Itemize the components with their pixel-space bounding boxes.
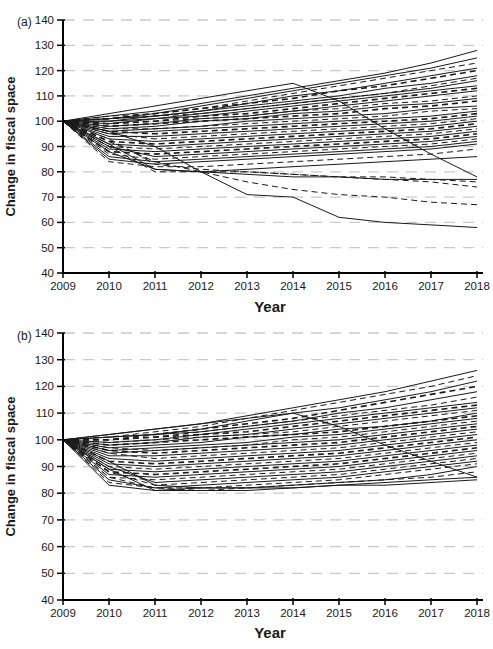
- x-tick-label: 2009: [50, 607, 76, 619]
- y-axis-title: Change in fiscal space: [3, 76, 18, 216]
- x-tick-label: 2011: [143, 607, 168, 619]
- x-tick-label: 2012: [188, 607, 214, 619]
- y-tick-label: 90: [41, 141, 54, 153]
- y-tick-label: 50: [41, 567, 54, 579]
- panel-label: (a): [17, 15, 32, 29]
- series-line: [63, 370, 477, 439]
- series-line: [63, 121, 477, 156]
- y-tick-label: 140: [35, 327, 54, 339]
- panel-a-chart: 4050607080901001101201301402009201020112…: [0, 0, 493, 322]
- y-tick-label: 120: [35, 380, 54, 392]
- fiscal-space-figure: 4050607080901001101201301402009201020112…: [0, 0, 493, 649]
- x-tick-label: 2010: [96, 607, 122, 619]
- y-tick-label: 70: [41, 514, 54, 526]
- y-tick-label: 140: [35, 14, 54, 26]
- x-tick-label: 2017: [418, 280, 444, 292]
- y-tick-label: 130: [35, 39, 54, 51]
- y-tick-label: 80: [41, 166, 54, 178]
- panel-label: (b): [17, 329, 32, 343]
- series-line: [63, 121, 477, 187]
- x-tick-label: 2016: [372, 280, 398, 292]
- x-tick-label: 2016: [372, 607, 398, 619]
- x-tick-label: 2009: [50, 280, 76, 292]
- x-tick-label: 2013: [234, 280, 260, 292]
- y-tick-label: 130: [35, 354, 54, 366]
- y-tick-label: 70: [41, 191, 54, 203]
- series-line: [63, 416, 477, 445]
- x-tick-label: 2018: [464, 607, 490, 619]
- y-tick-label: 100: [35, 434, 54, 446]
- y-tick-label: 80: [41, 487, 54, 499]
- y-tick-label: 90: [41, 461, 54, 473]
- x-tick-label: 2010: [96, 280, 122, 292]
- x-tick-label: 2014: [280, 280, 306, 292]
- y-tick-label: 110: [36, 90, 54, 102]
- x-axis-title: Year: [254, 624, 286, 641]
- y-axis-title: Change in fiscal space: [3, 396, 18, 536]
- x-tick-label: 2013: [234, 607, 260, 619]
- panel-b-chart: 4050607080901001101201301402009201020112…: [0, 322, 493, 649]
- x-tick-label: 2018: [464, 280, 490, 292]
- x-tick-label: 2015: [326, 280, 352, 292]
- y-tick-label: 40: [41, 267, 54, 279]
- y-tick-label: 40: [41, 594, 54, 606]
- x-tick-label: 2014: [280, 607, 306, 619]
- series-line: [63, 413, 477, 448]
- series-line: [63, 58, 477, 121]
- x-tick-label: 2015: [326, 607, 352, 619]
- x-axis-title: Year: [254, 298, 286, 315]
- y-tick-label: 60: [41, 216, 54, 228]
- y-tick-label: 110: [36, 407, 54, 419]
- y-tick-label: 60: [41, 541, 54, 553]
- x-tick-label: 2012: [188, 280, 214, 292]
- y-tick-label: 100: [35, 115, 54, 127]
- x-tick-label: 2011: [143, 280, 168, 292]
- x-tick-label: 2017: [418, 607, 444, 619]
- y-tick-label: 50: [41, 242, 54, 254]
- y-tick-label: 120: [35, 65, 54, 77]
